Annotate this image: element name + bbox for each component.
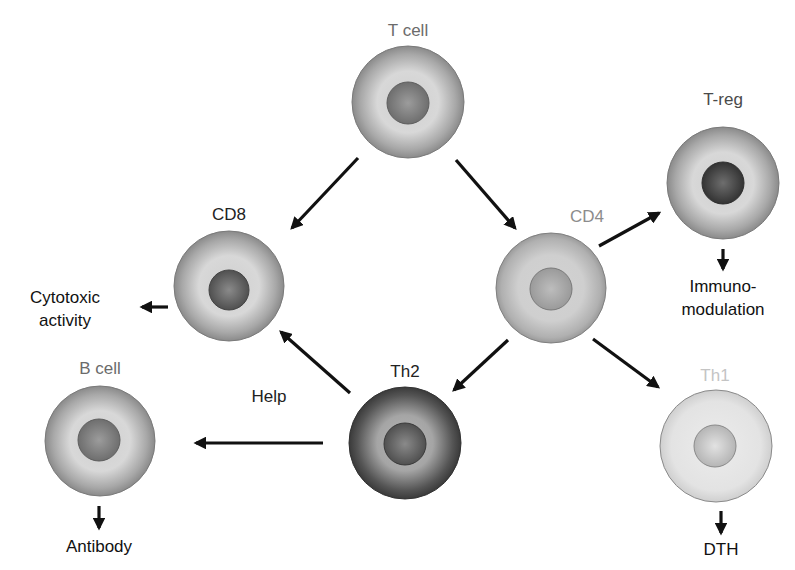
arrow-tcell-to-cd4: [456, 160, 515, 228]
cell-th1: Th1: [660, 366, 772, 502]
cell-b-cell: B cell: [45, 359, 155, 496]
cell-nucleus: [209, 270, 249, 310]
cell-label-t-cell: T cell: [388, 21, 428, 40]
cell-label-t-reg: T-reg: [703, 90, 743, 109]
cell-t-cell: T cell: [352, 21, 464, 158]
cell-nucleus: [530, 268, 572, 310]
cell-nucleus: [694, 425, 736, 467]
arrow-tcell-to-cd8: [292, 158, 358, 228]
outcome-cytotoxic-line2: activity: [39, 311, 91, 330]
arrow-cd4-to-th1: [593, 339, 658, 387]
cell-nucleus: [78, 419, 120, 461]
cell-label-cd4: CD4: [570, 207, 604, 226]
diagram-canvas: T cell CD8 CD4 T-reg B cell Th2 Th1 Cyto…: [0, 0, 795, 570]
cell-t-reg: T-reg: [667, 90, 779, 239]
outcome-cytotoxic-line1: Cytotoxic: [30, 288, 100, 307]
cell-label-th1: Th1: [700, 366, 729, 385]
arrow-cd4-to-treg: [599, 213, 659, 246]
outcome-immuno-line2: modulation: [681, 300, 764, 319]
outcome-immuno-line1: Immuno-: [689, 277, 756, 296]
cell-cd8: CD8: [174, 205, 284, 341]
cell-label-th2: Th2: [390, 362, 419, 381]
cell-nucleus: [384, 423, 426, 465]
arrow-cd4-to-th2: [454, 340, 508, 390]
cell-nucleus: [702, 162, 744, 204]
cell-label-b-cell: B cell: [79, 359, 121, 378]
arrow-th2-to-cd8: [281, 332, 350, 393]
cell-label-cd8: CD8: [212, 205, 246, 224]
edge-label-help: Help: [252, 387, 287, 406]
outcome-antibody: Antibody: [66, 537, 133, 556]
cell-th2: Th2: [349, 362, 461, 499]
outcome-dth: DTH: [704, 540, 739, 559]
cell-nucleus: [387, 82, 429, 124]
